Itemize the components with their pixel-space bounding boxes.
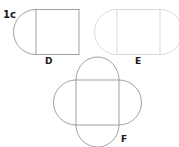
shape-f-left-semicircle <box>54 80 77 125</box>
shape-e-square <box>117 10 160 55</box>
shape-e-left-semicircle <box>95 10 117 55</box>
shape-f-square <box>76 80 119 125</box>
shape-d-left-semicircle <box>14 10 37 55</box>
shape-e-right-semicircle <box>160 10 179 55</box>
shape-d-label: D <box>45 57 52 66</box>
shapes-diagram <box>0 0 179 147</box>
shape-d <box>14 10 80 55</box>
shape-f <box>54 57 142 147</box>
shape-f-bottom-semicircle <box>76 125 119 147</box>
shape-e-label: E <box>135 57 141 66</box>
shape-f-right-semicircle <box>119 80 142 125</box>
shape-f-top-semicircle <box>76 57 119 80</box>
shape-d-square <box>36 10 79 55</box>
figure-label: 1c <box>3 10 16 20</box>
shape-f-label: F <box>121 135 127 144</box>
shape-e <box>95 10 179 55</box>
